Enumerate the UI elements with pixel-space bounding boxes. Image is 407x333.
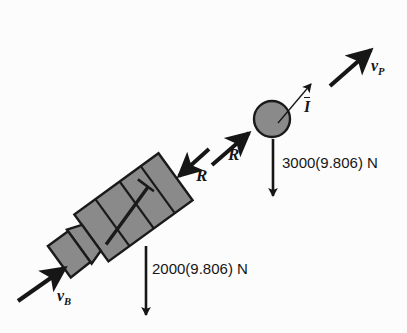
physics-diagram: vP I 3000(9.806) N R R 2000(9.806) N vB [0, 0, 407, 333]
projectile-circle [254, 101, 290, 137]
weight-projectile-label: 3000(9.806) N [282, 155, 378, 170]
reaction-upper-label: R [228, 146, 239, 163]
velocity-body-subscript: B [64, 296, 71, 307]
impulse-label: I [304, 97, 310, 115]
velocity-projectile-subscript: P [378, 66, 384, 77]
velocity-projectile-label: vP [371, 58, 385, 78]
weight-body-label: 2000(9.806) N [152, 261, 248, 276]
reaction-lower-label: R [196, 167, 207, 184]
velocity-body-label: vB [57, 288, 71, 308]
velocity-projectile-arrow [330, 50, 371, 86]
impulse-symbol: I [304, 97, 310, 115]
